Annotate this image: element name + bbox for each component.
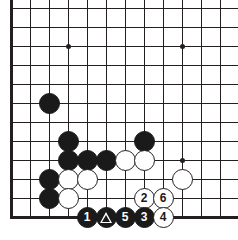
grid-line-horizontal bbox=[10, 141, 238, 142]
stone-move-number: 3 bbox=[141, 211, 148, 223]
grid-line-horizontal bbox=[10, 27, 238, 28]
stone-black-marked-triangle bbox=[96, 207, 117, 228]
stone-black-d4 bbox=[58, 150, 79, 171]
stone-white-move-2: 2 bbox=[134, 188, 155, 209]
stone-white-h4 bbox=[134, 150, 155, 171]
go-board-diagram: 261534 bbox=[0, 0, 238, 240]
stone-black-f4 bbox=[96, 150, 117, 171]
stone-move-number: 6 bbox=[160, 192, 167, 204]
stone-black-h5 bbox=[134, 131, 155, 152]
grid-line-horizontal bbox=[10, 84, 238, 85]
stone-white-e3 bbox=[77, 169, 98, 190]
stone-black-e4 bbox=[77, 150, 98, 171]
stone-black-c3 bbox=[39, 169, 60, 190]
stone-white-d2 bbox=[58, 188, 79, 209]
grid-line-vertical bbox=[201, 0, 202, 218]
stone-white-d3 bbox=[58, 169, 79, 190]
stone-black-move-1: 1 bbox=[77, 207, 98, 228]
grid-line-horizontal bbox=[10, 46, 238, 47]
stone-white-move-6: 6 bbox=[153, 188, 174, 209]
grid-line-vertical bbox=[106, 0, 107, 218]
grid-line-vertical bbox=[163, 0, 164, 218]
grid-line-horizontal bbox=[10, 65, 238, 66]
stone-white-g4 bbox=[115, 150, 136, 171]
stone-white-k3 bbox=[172, 169, 193, 190]
triangle-marker-icon bbox=[100, 212, 113, 223]
stone-black-c2 bbox=[39, 188, 60, 209]
grid-line-horizontal bbox=[10, 8, 238, 9]
board-grid bbox=[0, 0, 238, 240]
stone-black-c7 bbox=[39, 93, 60, 114]
star-point-d16 bbox=[66, 44, 71, 49]
grid-line-vertical bbox=[30, 0, 31, 218]
stone-black-move-3: 3 bbox=[134, 207, 155, 228]
stone-move-number: 4 bbox=[160, 211, 167, 223]
stone-black-move-5: 5 bbox=[115, 207, 136, 228]
star-point-k4 bbox=[180, 158, 185, 163]
grid-line-vertical bbox=[125, 0, 126, 218]
grid-line-horizontal bbox=[10, 122, 238, 123]
grid-line-vertical bbox=[144, 0, 145, 218]
stone-move-number: 2 bbox=[141, 192, 148, 204]
board-edge-left bbox=[10, 0, 13, 218]
star-point-k16 bbox=[180, 44, 185, 49]
stone-move-number: 1 bbox=[84, 211, 91, 223]
grid-line-vertical bbox=[220, 0, 221, 218]
stone-move-number: 5 bbox=[122, 211, 129, 223]
stone-black-d5 bbox=[58, 131, 79, 152]
stone-white-move-4: 4 bbox=[153, 207, 174, 228]
